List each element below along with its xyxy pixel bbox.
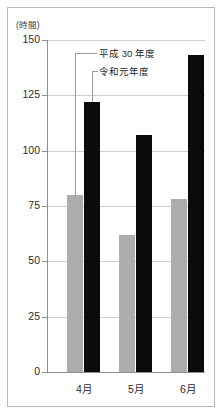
y-tick-75 (42, 206, 47, 207)
bar-april-reiwa (84, 102, 100, 372)
y-tick-25 (42, 317, 47, 318)
annotation-heisei-label: 平成 30 年度 (99, 48, 155, 59)
y-tick-100 (42, 151, 47, 152)
bar-may-heisei (119, 235, 135, 372)
bar-may-reiwa (136, 135, 152, 372)
y-axis-label-25: 25 (14, 311, 40, 322)
x-axis-label-may: 5月 (114, 381, 158, 396)
gridline-125 (47, 95, 205, 96)
y-axis-label-150: 150 (14, 34, 40, 45)
y-tick-50 (42, 261, 47, 262)
gridline-100 (47, 151, 205, 152)
annotation-heisei-leader-vertical (75, 53, 76, 195)
x-axis-line (47, 372, 205, 373)
chart-figure: (時間) 150 125 100 75 50 25 0 (0, 0, 222, 414)
y-tick-150 (42, 40, 47, 41)
y-tick-125 (42, 95, 47, 96)
x-axis-label-june: 6月 (166, 381, 210, 396)
annotation-reiwa-label: 令和元年度 (99, 66, 149, 77)
y-axis-line (47, 40, 48, 373)
y-axis-label-100: 100 (14, 145, 40, 156)
y-axis-label-75: 75 (14, 200, 40, 211)
bar-june-heisei (171, 199, 187, 372)
y-axis-unit-label: (時間) (16, 18, 40, 30)
y-axis-label-125: 125 (14, 89, 40, 100)
bar-june-reiwa (188, 55, 204, 372)
y-axis-label-0: 0 (14, 366, 40, 377)
bar-april-heisei (67, 195, 83, 372)
annotation-heisei-leader-horizontal (75, 53, 97, 54)
y-axis-label-50: 50 (14, 255, 40, 266)
annotation-reiwa-leader-vertical (92, 71, 93, 102)
plot-area (47, 40, 205, 372)
x-axis-label-april: 4月 (62, 381, 106, 396)
gridline-150 (47, 40, 205, 41)
y-tick-0 (42, 372, 47, 373)
